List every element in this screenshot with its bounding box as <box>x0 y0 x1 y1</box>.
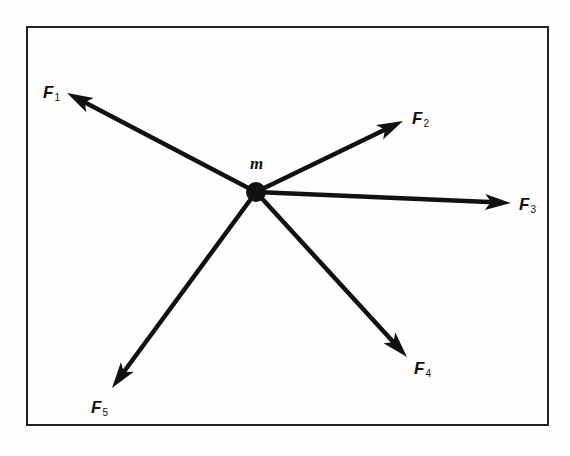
force-arrow-shaft-f5 <box>125 192 256 370</box>
force-label-f3: F3 <box>519 196 536 215</box>
force-label-f1: F1 <box>43 84 60 103</box>
force-subscript: 2 <box>423 118 429 129</box>
force-symbol: F <box>43 83 53 102</box>
force-arrow-shaft-f4 <box>256 192 392 341</box>
force-label-f5: F5 <box>91 399 108 418</box>
force-arrow-shaft-f2 <box>256 131 383 192</box>
force-label-f2: F2 <box>412 110 429 129</box>
force-subscript: 4 <box>425 368 431 379</box>
force-symbol: F <box>414 359 424 378</box>
force-symbol: F <box>412 109 422 128</box>
force-subscript: 3 <box>530 204 536 215</box>
force-label-f4: F4 <box>414 360 431 379</box>
diagram-canvas: m F1F2F3F4F5 <box>0 0 570 456</box>
force-arrow-shaft-f3 <box>256 192 489 202</box>
force-subscript: 5 <box>102 407 108 418</box>
force-arrow-shaft-f1 <box>86 103 256 192</box>
force-arrows <box>67 93 511 388</box>
force-diagram <box>0 0 570 456</box>
force-symbol: F <box>91 398 101 417</box>
force-subscript: 1 <box>54 92 60 103</box>
force-symbol: F <box>519 195 529 214</box>
mass-point <box>246 182 266 202</box>
mass-label: m <box>250 155 263 172</box>
